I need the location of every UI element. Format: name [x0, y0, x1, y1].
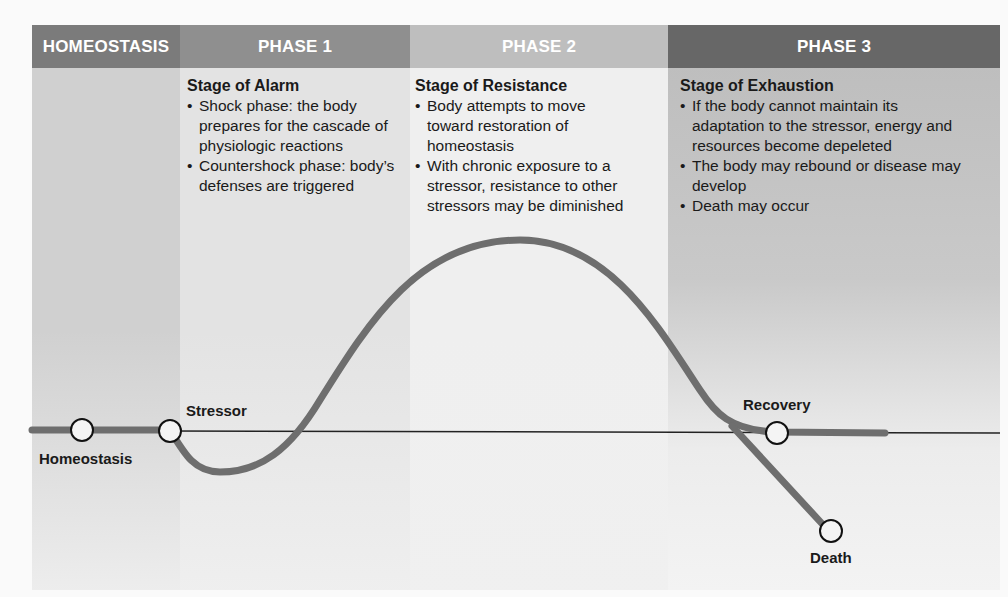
stressor-label: Stressor	[186, 402, 247, 419]
death-node	[820, 520, 842, 542]
stress-response-curve	[0, 0, 1008, 597]
death-label: Death	[810, 549, 852, 566]
homeostasis-label: Homeostasis	[39, 450, 132, 467]
recovery-label: Recovery	[743, 396, 811, 413]
recovery-node	[766, 422, 788, 444]
homeostasis-node	[71, 419, 93, 441]
stressor-node	[159, 420, 181, 442]
